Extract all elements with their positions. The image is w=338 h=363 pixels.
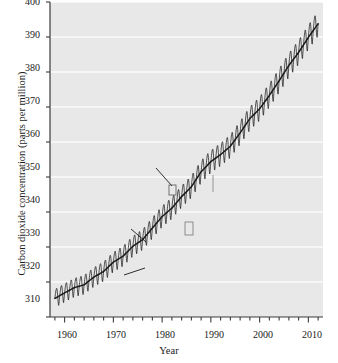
plot-area <box>0 0 338 363</box>
co2-chart-figure: Carbon dioxide concentration (parts per … <box>0 0 338 363</box>
